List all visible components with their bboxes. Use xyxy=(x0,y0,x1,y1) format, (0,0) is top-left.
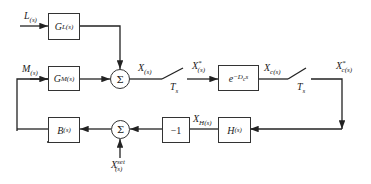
block-neg: −1 xyxy=(162,117,190,143)
block-gm-main: G xyxy=(54,73,61,84)
block-gm-sub: M(s) xyxy=(61,75,74,83)
sum-junction-top: Σ xyxy=(110,69,130,89)
label-xh-sub: H(s) xyxy=(199,119,211,127)
label-ts-1: Ts xyxy=(170,82,178,95)
label-xc-star: X*c(s) xyxy=(336,60,352,74)
block-b: B(s) xyxy=(48,117,80,143)
sigma-icon: Σ xyxy=(117,124,124,135)
block-h: H(s) xyxy=(218,117,251,143)
block-h-sub: (s) xyxy=(234,126,241,134)
block-gm: GM(s) xyxy=(48,66,80,91)
block-delay-sup: −D xyxy=(233,73,243,81)
label-m-sub: (s) xyxy=(30,69,37,77)
label-ts-2: Ts xyxy=(297,82,305,95)
block-h-main: H xyxy=(227,125,234,136)
block-b-sub: (s) xyxy=(63,126,70,134)
label-xc: Xc(s) xyxy=(264,63,281,76)
label-ts-2-sub: s xyxy=(303,87,306,95)
sum-junction-bottom: Σ xyxy=(111,120,130,139)
label-ts-1-sub: s xyxy=(176,87,179,95)
label-xc-star-sub: c(s) xyxy=(342,66,353,74)
block-gl: GL(s) xyxy=(48,13,80,40)
block-gl-main: G xyxy=(55,21,62,32)
block-gl-sub: L(s) xyxy=(62,23,73,31)
block-neg-text: −1 xyxy=(171,125,182,136)
label-x-star-sub: (s) xyxy=(198,66,205,74)
label-x-sub: (s) xyxy=(144,68,151,76)
block-delay-suptail: s xyxy=(246,73,249,81)
label-xc-sub: c(s) xyxy=(270,68,281,76)
label-xset: Xset(s) xyxy=(111,159,122,173)
sigma-icon: Σ xyxy=(116,74,123,85)
label-xset-sub: (s) xyxy=(115,165,122,173)
label-l: L(s) xyxy=(24,11,37,24)
label-x: X(s) xyxy=(138,63,152,76)
label-x-star: X*(s) xyxy=(192,60,205,74)
label-l-sub: (s) xyxy=(30,16,37,24)
label-m: M(s) xyxy=(22,64,38,77)
label-xh: XH(s) xyxy=(193,114,212,127)
block-delay: e−Dcs xyxy=(218,65,259,91)
